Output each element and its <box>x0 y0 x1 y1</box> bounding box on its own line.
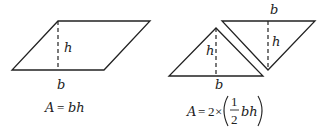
parallelogram-shape <box>12 21 150 70</box>
left-paren <box>224 96 228 126</box>
formula-area-var: A <box>44 100 54 115</box>
formula-equals: = <box>57 100 64 115</box>
triangle-up: h b <box>169 28 263 92</box>
triangle-up-height-label: h <box>206 43 214 58</box>
triangle-up-base-label: b <box>215 77 223 92</box>
parallelogram-base-label: b <box>57 77 65 92</box>
formula-coefficient: 2 <box>208 104 215 119</box>
right-paren <box>258 96 262 126</box>
formula-bh: bh <box>68 100 85 115</box>
parallelogram-formula: A = bh <box>44 100 85 115</box>
fraction-numerator: 1 <box>231 94 238 109</box>
area-diagram: h b A = bh h b h b A = 2 × 1 <box>0 0 330 133</box>
fraction-denominator: 2 <box>231 112 238 127</box>
triangle-down-base-label: b <box>270 2 278 17</box>
triangle-down-height-label: h <box>272 34 280 49</box>
parallelogram-height-label: h <box>64 40 72 55</box>
formula-equals: = <box>198 104 205 119</box>
formula-area-var: A <box>186 104 196 119</box>
formula-bh: bh <box>241 104 258 119</box>
triangles-figure: h b h b A = 2 × 1 2 bh <box>169 2 315 127</box>
triangle-down: h b <box>222 2 315 70</box>
formula-times: × <box>215 104 222 119</box>
parallelogram-figure: h b A = bh <box>12 21 150 115</box>
triangles-formula: A = 2 × 1 2 bh <box>186 94 262 127</box>
